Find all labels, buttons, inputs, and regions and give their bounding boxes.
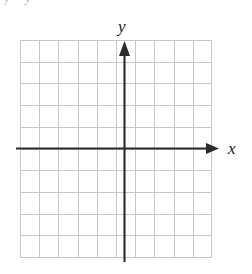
axes-layer bbox=[0, 0, 252, 274]
coordinate-plane-figure: y y bbox=[0, 0, 252, 274]
x-axis-label: x bbox=[228, 140, 236, 157]
y-axis-arrowhead bbox=[119, 41, 130, 56]
y-axis-label: y bbox=[118, 18, 126, 35]
x-axis-arrowhead bbox=[206, 143, 219, 154]
